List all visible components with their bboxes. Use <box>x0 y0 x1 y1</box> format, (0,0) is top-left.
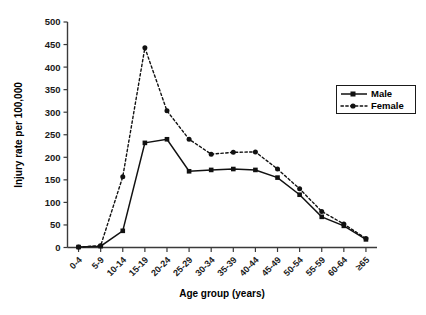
x-axis-title: Age group (years) <box>179 288 265 299</box>
data-point-female <box>297 186 302 191</box>
x-tick-label: 60-64 <box>326 255 349 278</box>
x-tick-label: 25-29 <box>171 255 194 278</box>
y-tick-label: 50 <box>50 219 61 230</box>
x-tick-label: 40-44 <box>237 255 260 278</box>
x-tick-label: 50-54 <box>282 255 305 278</box>
y-tick-label: 150 <box>45 174 61 185</box>
data-point-male <box>342 224 347 229</box>
legend-marker-female <box>350 103 355 108</box>
y-tick-label: 250 <box>45 129 61 140</box>
x-axis-ticks: 0-45-910-1415-1920-2425-2930-3435-3940-4… <box>68 248 372 279</box>
y-tick-label: 500 <box>45 16 61 27</box>
chart-legend: Male Female <box>337 86 416 114</box>
x-tick-label: 5-9 <box>90 255 106 271</box>
data-point-female <box>231 150 236 155</box>
legend-marker-male <box>351 92 356 97</box>
x-tick-label: 10-14 <box>105 255 128 278</box>
data-point-male <box>143 141 148 146</box>
x-tick-label: 20-24 <box>149 255 172 278</box>
data-point-male <box>275 175 280 180</box>
data-point-male <box>187 169 192 174</box>
data-point-female <box>164 108 169 113</box>
x-tick-label: 35-39 <box>215 255 238 278</box>
data-point-male <box>319 215 324 220</box>
legend-label-female: Female <box>371 100 404 111</box>
data-point-female <box>142 45 147 50</box>
data-point-male <box>120 229 125 234</box>
y-axis-title: Injury rate per 100,000 <box>13 82 24 188</box>
x-tick-label: ≥65 <box>354 255 372 273</box>
injury-rate-line-chart: Injury rate per 100,000 0501001502002503… <box>0 0 426 315</box>
y-axis-ticks: 050100150200250300350400450500 <box>45 16 68 253</box>
data-point-male <box>165 137 170 142</box>
x-tick-label: 30-34 <box>193 255 216 278</box>
y-tick-label: 400 <box>45 62 61 73</box>
y-tick-label: 200 <box>45 152 61 163</box>
y-tick-label: 100 <box>45 197 61 208</box>
chart-container: Injury rate per 100,000 0501001502002503… <box>0 0 426 315</box>
data-point-male <box>98 244 103 249</box>
data-series-layer <box>76 45 368 249</box>
x-tick-label: 55-59 <box>304 255 327 278</box>
y-tick-label: 0 <box>55 242 60 253</box>
data-point-male <box>253 168 258 173</box>
data-point-female <box>209 152 214 157</box>
data-point-female <box>319 209 324 214</box>
x-tick-label: 45-49 <box>260 255 283 278</box>
data-point-male <box>364 237 369 242</box>
y-tick-label: 300 <box>45 107 61 118</box>
legend-label-male: Male <box>371 88 392 99</box>
series-markers-female <box>76 45 368 249</box>
data-point-male <box>297 192 302 197</box>
data-point-male <box>76 245 81 250</box>
data-point-male <box>231 167 236 172</box>
data-point-male <box>209 168 214 173</box>
y-tick-label: 350 <box>45 84 61 95</box>
data-point-female <box>253 149 258 154</box>
data-point-female <box>120 174 125 179</box>
data-point-female <box>187 137 192 142</box>
x-tick-label: 0-4 <box>68 255 84 271</box>
data-point-female <box>275 167 280 172</box>
y-tick-label: 450 <box>45 39 61 50</box>
x-tick-label: 15-19 <box>127 255 150 278</box>
